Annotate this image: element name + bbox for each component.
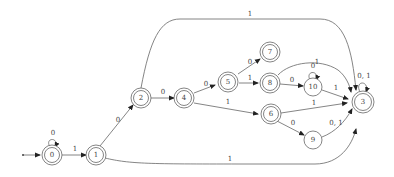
edge-8-10 — [280, 84, 303, 86]
state-label: 0 — [50, 151, 54, 159]
edge-label-10-3: 1 — [334, 84, 338, 92]
state-label: 8 — [268, 79, 272, 87]
state-0: 0 — [42, 145, 62, 165]
edge-label-10-10: 0 — [311, 62, 315, 70]
state-7: 7 — [260, 42, 280, 62]
state-label: 10 — [309, 83, 318, 91]
edge-label-4-6: 1 — [226, 98, 230, 106]
edge-label-1-2: 0 — [116, 116, 120, 124]
state-4: 4 — [174, 88, 194, 108]
state-5: 5 — [218, 72, 238, 92]
state-1: 1 — [86, 145, 106, 165]
state-label: 5 — [226, 78, 230, 86]
state-8: 8 — [260, 73, 280, 93]
state-label: 3 — [361, 98, 365, 106]
edge-label-5-8: 1 — [248, 74, 252, 82]
edge-label-8-10: 0 — [290, 76, 294, 84]
state-3: 3 — [352, 91, 374, 113]
edge-label-2-3: 1 — [248, 10, 252, 18]
state-label: 2 — [139, 94, 143, 102]
edge-label-6-3: 1 — [312, 99, 316, 107]
edge-label-8-3: 1 — [315, 58, 319, 66]
edge-label-2-4: 0 — [161, 88, 165, 96]
state-label: 6 — [269, 110, 274, 118]
state-10: 10 — [304, 78, 322, 96]
edge-label-0-1: 1 — [73, 145, 77, 153]
edge-label-0-0: 0 — [51, 129, 55, 137]
state-label: 7 — [268, 48, 272, 56]
edge-1-2 — [100, 105, 133, 146]
edge-label-1-3: 1 — [228, 155, 232, 163]
automaton-diagram: 0 1 0 1 0 1 0 1 0 1 0 1 0 1 1 0 0, 1 0, … — [0, 0, 394, 177]
state-label: 1 — [94, 151, 98, 159]
state-2: 2 — [131, 88, 151, 108]
edge-label-6-9: 0 — [291, 119, 295, 127]
state-label: 9 — [311, 136, 315, 144]
edge-label-3-3: 0, 1 — [357, 72, 370, 80]
state-6: 6 — [261, 104, 281, 124]
state-9: 9 — [304, 131, 322, 149]
state-label: 4 — [182, 94, 187, 102]
edge-label-9-3: 0, 1 — [329, 119, 342, 127]
start-dot — [22, 154, 24, 156]
edge-label-5-7: 0 — [248, 58, 252, 66]
edge-label-4-5: 0 — [204, 80, 208, 88]
